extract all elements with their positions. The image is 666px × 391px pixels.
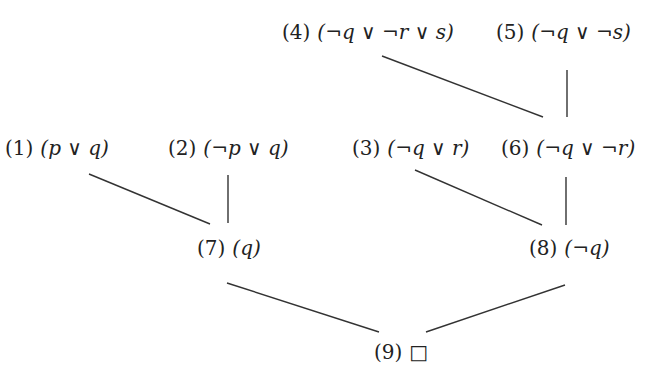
edges-layer (0, 0, 666, 391)
clause-number: (3) (352, 136, 380, 160)
clause-formula: (¬q ∨ ¬s) (531, 20, 631, 44)
edge-1-to-7 (89, 174, 210, 224)
clause-node-9: (9)□ (374, 342, 428, 362)
clause-node-2: (2)(¬p ∨ q) (168, 138, 289, 158)
edge-8-to-9 (426, 285, 565, 332)
clause-formula: (p ∨ q) (40, 136, 109, 160)
clause-formula: (¬p ∨ q) (203, 136, 288, 160)
clause-formula: (¬q) (564, 236, 609, 260)
clause-formula: (¬q ∨ r) (387, 136, 469, 160)
clause-number: (2) (168, 136, 196, 160)
resolution-diagram: (4)(¬q ∨ ¬r ∨ s)(5)(¬q ∨ ¬s)(1)(p ∨ q)(2… (0, 0, 666, 391)
clause-node-7: (7)(q) (197, 238, 261, 258)
edge-3-to-8 (415, 170, 542, 225)
empty-clause-box-icon: □ (409, 340, 428, 364)
clause-node-3: (3)(¬q ∨ r) (352, 138, 469, 158)
clause-node-1: (1)(p ∨ q) (5, 138, 109, 158)
clause-node-6: (6)(¬q ∨ ¬r) (501, 138, 635, 158)
clause-formula: (q) (232, 236, 260, 260)
clause-number: (4) (282, 20, 310, 44)
clause-number: (6) (501, 136, 529, 160)
clause-number: (1) (5, 136, 33, 160)
clause-number: (9) (374, 340, 402, 364)
clause-number: (7) (197, 236, 225, 260)
clause-node-8: (8)(¬q) (529, 238, 610, 258)
clause-number: (5) (496, 20, 524, 44)
edge-7-to-9 (227, 283, 379, 332)
edge-4-to-6 (382, 56, 543, 117)
clause-node-4: (4)(¬q ∨ ¬r ∨ s) (282, 22, 454, 42)
clause-node-5: (5)(¬q ∨ ¬s) (496, 22, 631, 42)
clause-formula: (¬q ∨ ¬r) (536, 136, 635, 160)
clause-number: (8) (529, 236, 557, 260)
clause-formula: (¬q ∨ ¬r ∨ s) (317, 20, 453, 44)
